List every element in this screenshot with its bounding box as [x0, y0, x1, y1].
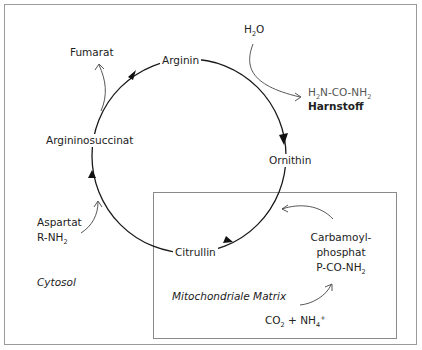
- label-h2o: H2O: [244, 23, 264, 36]
- arrowhead-to-citrullin-icon: [223, 236, 233, 243]
- label-cytosol: Cytosol: [37, 276, 76, 289]
- label-fumarat: Fumarat: [70, 46, 114, 59]
- label-mitochondrial-matrix: Mitochondriale Matrix: [172, 290, 286, 303]
- label-carbamoyl-formula: P-CO-NH2: [305, 261, 377, 274]
- label-r-nh2: R-NH2: [37, 231, 68, 244]
- label-urea-formula: H2N-CO-NH2: [308, 86, 371, 99]
- side-arrows: [81, 44, 333, 305]
- node-ornithin: Ornithin: [267, 154, 313, 167]
- aspartat-arrow: [81, 202, 98, 233]
- cycle-arrowheads: [88, 70, 288, 243]
- arrowhead-to-argininosuccinat-icon: [88, 170, 96, 178]
- label-co2-nh4: CO2 + NH4+: [265, 314, 326, 327]
- co2-arrow: [300, 285, 331, 305]
- node-citrullin: Citrullin: [173, 246, 218, 259]
- node-argininosuccinat: Argininosuccinat: [44, 134, 135, 147]
- urea-arrowhead-icon: [295, 93, 301, 101]
- node-arginin: Arginin: [160, 54, 201, 67]
- label-carbamoyl-line1: Carbamoyl-: [305, 231, 377, 244]
- carbamoyl-arrow: [282, 206, 333, 219]
- fumarat-arrow: [99, 65, 105, 111]
- label-aspartat: Aspartat: [37, 216, 82, 229]
- label-carbamoyl-line2: phosphat: [305, 246, 377, 259]
- cycle-circle: [92, 59, 286, 253]
- label-harnstoff: Harnstoff: [308, 100, 364, 113]
- h2o-urea-arrow: [250, 44, 300, 97]
- arrowhead-to-ornithin-icon: [279, 133, 288, 145]
